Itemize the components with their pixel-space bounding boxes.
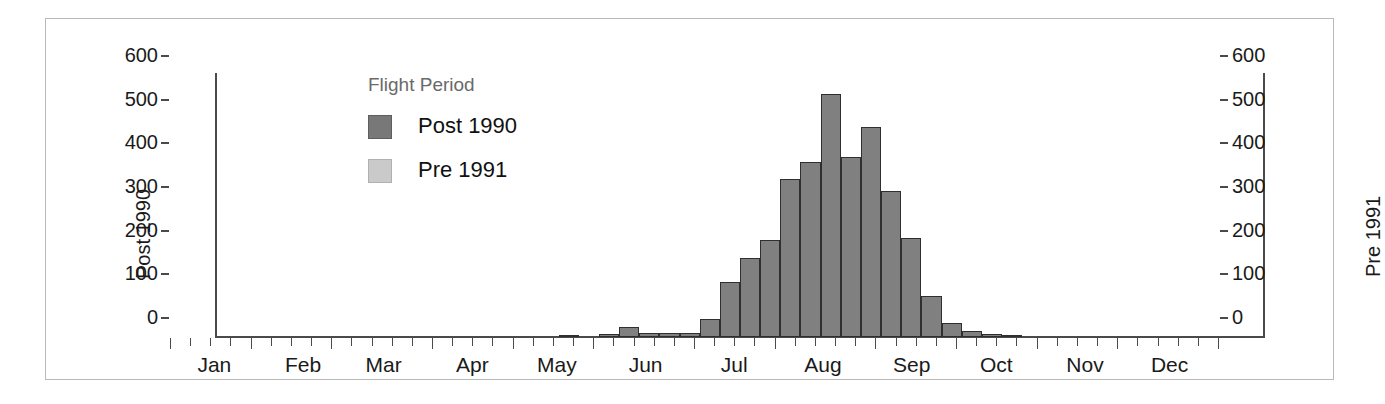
figure-frame: Post 1990 Pre 1991 0100200300400500600 0… xyxy=(45,18,1334,380)
bar xyxy=(861,127,881,337)
bar xyxy=(559,335,579,337)
x-axis-minor-tick xyxy=(916,338,917,346)
x-axis-minor-tick xyxy=(835,338,836,346)
y-axis-left-tick xyxy=(161,142,169,144)
x-axis-month-label-nov: Nov xyxy=(1045,353,1125,377)
bar xyxy=(841,157,861,337)
x-axis-minor-tick xyxy=(1077,338,1078,346)
legend-swatch-icon-pre-1991 xyxy=(368,159,392,183)
x-axis-major-tick xyxy=(251,338,252,349)
x-axis-minor-tick xyxy=(996,338,997,346)
x-axis-minor-tick xyxy=(613,338,614,346)
x-axis-minor-tick xyxy=(1198,338,1199,346)
y-axis-left-tick-label: 100 xyxy=(110,263,158,283)
x-axis-minor-tick xyxy=(1057,338,1058,346)
x-axis-minor-tick xyxy=(714,338,715,346)
x-axis-month-label-jun: Jun xyxy=(606,353,686,377)
x-axis-major-tick xyxy=(1218,338,1219,349)
bar xyxy=(881,191,901,337)
x-axis-month-label-jul: Jul xyxy=(694,353,774,377)
x-axis-minor-tick xyxy=(311,338,312,346)
x-axis-minor-tick xyxy=(392,338,393,346)
legend-swatch-icon-post-1990 xyxy=(368,115,392,139)
y-axis-left-tick xyxy=(161,99,169,101)
bar xyxy=(680,333,700,337)
y-axis-left-tick xyxy=(161,273,169,275)
legend-label-pre-1991: Pre 1991 xyxy=(418,157,507,183)
x-axis-major-tick xyxy=(956,338,957,349)
bar xyxy=(962,331,982,337)
x-axis-minor-tick xyxy=(754,338,755,346)
x-axis-month-label-dec: Dec xyxy=(1130,353,1210,377)
x-axis-major-tick xyxy=(1037,338,1038,349)
x-axis-minor-tick xyxy=(815,338,816,346)
y-axis-left-tick-label: 500 xyxy=(110,89,158,109)
bar xyxy=(942,323,962,337)
bar xyxy=(659,333,679,337)
x-axis-minor-tick xyxy=(210,338,211,346)
bar xyxy=(982,334,1002,337)
legend-label-post-1990: Post 1990 xyxy=(418,113,517,139)
x-axis-major-tick xyxy=(694,338,695,349)
x-axis-minor-tick xyxy=(674,338,675,346)
legend-title: Flight Period xyxy=(368,74,475,96)
x-axis-minor-tick xyxy=(1158,338,1159,346)
bar xyxy=(760,240,780,337)
x-axis-major-tick xyxy=(875,338,876,349)
x-axis-minor-tick xyxy=(372,338,373,346)
y-axis-left-tick xyxy=(161,186,169,188)
x-axis-minor-tick xyxy=(795,338,796,346)
bar xyxy=(780,179,800,338)
y-axis-left-tick-label: 200 xyxy=(110,220,158,240)
x-axis-minor-tick xyxy=(533,338,534,346)
y-axis-left-tick-label: 400 xyxy=(110,132,158,152)
x-axis-month-label-sep: Sep xyxy=(872,353,952,377)
y-axis-left-tick xyxy=(161,55,169,57)
x-axis-major-tick xyxy=(513,338,514,349)
x-axis-major-tick xyxy=(170,338,171,349)
x-axis-minor-tick xyxy=(291,338,292,346)
x-axis-minor-tick xyxy=(1097,338,1098,346)
bar xyxy=(720,282,740,337)
x-axis-major-tick xyxy=(331,338,332,349)
bar xyxy=(599,334,619,337)
x-axis-minor-tick xyxy=(492,338,493,346)
x-axis-minor-tick xyxy=(855,338,856,346)
plot-area xyxy=(216,74,1264,337)
x-axis-month-label-mar: Mar xyxy=(344,353,424,377)
y-axis-left-tick-label: 300 xyxy=(110,176,158,196)
x-axis-minor-tick xyxy=(452,338,453,346)
x-axis-month-label-may: May xyxy=(517,353,597,377)
x-axis-minor-tick xyxy=(351,338,352,346)
y-axis-left-tick xyxy=(161,317,169,319)
bar xyxy=(901,238,921,337)
x-axis-minor-tick xyxy=(190,338,191,346)
y-axis-right-tick-label: 600 xyxy=(1232,45,1280,65)
bar xyxy=(1002,335,1022,337)
x-axis-minor-tick xyxy=(573,338,574,346)
x-axis-month-label-aug: Aug xyxy=(783,353,863,377)
x-axis-minor-tick xyxy=(553,338,554,346)
bar xyxy=(740,258,760,337)
x-axis-minor-tick xyxy=(472,338,473,346)
x-axis-minor-tick xyxy=(1016,338,1017,346)
x-axis-minor-tick xyxy=(654,338,655,346)
bar xyxy=(619,327,639,337)
y-axis-right-tick xyxy=(1220,55,1228,57)
x-axis-minor-tick xyxy=(634,338,635,346)
bar xyxy=(921,296,941,337)
y-axis-left-tick-label: 600 xyxy=(110,45,158,65)
x-axis-month-label-apr: Apr xyxy=(432,353,512,377)
bar xyxy=(800,162,820,337)
x-axis-month-label-feb: Feb xyxy=(263,353,343,377)
x-axis-month-label-jan: Jan xyxy=(174,353,254,377)
x-axis-major-tick xyxy=(775,338,776,349)
x-axis-minor-tick xyxy=(734,338,735,346)
x-axis-month-label-oct: Oct xyxy=(956,353,1036,377)
x-axis-minor-tick xyxy=(230,338,231,346)
bar xyxy=(639,333,659,337)
x-axis-minor-tick xyxy=(271,338,272,346)
x-axis-minor-tick xyxy=(1137,338,1138,346)
x-axis-major-tick xyxy=(593,338,594,349)
